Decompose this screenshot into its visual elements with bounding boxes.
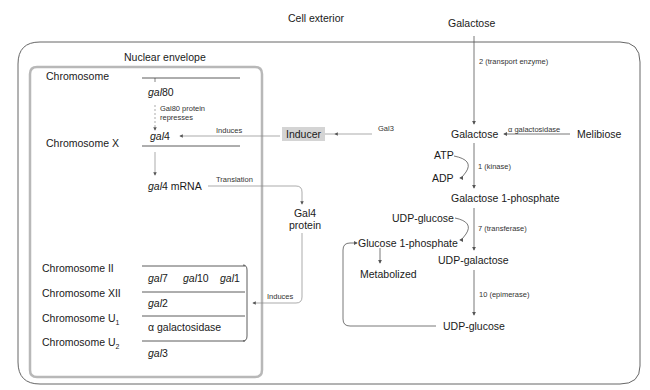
udp-galactose: UDP-galactose [438, 254, 509, 266]
gene-gal1: gal1 [220, 272, 240, 284]
atp: ATP [434, 149, 454, 161]
galactose-1-phosphate: Galactose 1-phosphate [451, 192, 560, 204]
gene-gal80: gal80 [148, 86, 174, 98]
gal4-protein: Gal4protein [289, 207, 321, 231]
metabolized: Metabolized [360, 268, 417, 280]
galactose-exterior: Galactose [448, 17, 495, 29]
induces-label-bottom: Induces [267, 292, 293, 301]
kinase-label: 1 (kinase) [478, 162, 511, 171]
chromosome-ii-label: Chromosome II [42, 262, 114, 274]
gene-alpha-galactosidase: α galactosidase [148, 321, 221, 333]
nuclear-envelope-label: Nuclear envelope [124, 51, 206, 63]
transport-enzyme-label: 2 (transport enzyme) [479, 57, 548, 66]
translation-label: Translation [216, 175, 253, 184]
chromosome-u2-label: Chromosome U2 [42, 336, 119, 350]
glucose-1-phosphate: Glucose 1-phosphate [358, 237, 458, 249]
gene-gal2: gal2 [148, 297, 168, 309]
epimerase-label: 10 (epimerase) [479, 290, 529, 299]
adp: ADP [432, 172, 454, 184]
gal3-label: Gal3 [378, 124, 394, 133]
inducer-box: Inducer [282, 127, 325, 141]
transferase-label: 7 (transferase) [478, 224, 527, 233]
udp-glucose-output: UDP-glucose [443, 320, 505, 332]
gal4-mrna: gal4 mRNA [148, 180, 202, 192]
gene-gal3: gal3 [148, 347, 168, 359]
represses-label: represses [160, 113, 193, 122]
nuclear-envelope [30, 67, 262, 377]
gene-gal7: gal7 [148, 272, 168, 284]
melibiose: Melibiose [577, 128, 621, 140]
chromosome-label: Chromosome [46, 70, 109, 82]
induces-label-top: Induces [216, 126, 242, 135]
galactose-interior: Galactose [451, 128, 498, 140]
gal80-protein-label: Gal80 protein [160, 104, 205, 113]
chromosome-u1-label: Chromosome U1 [42, 312, 119, 326]
cell-membrane [18, 42, 640, 384]
chromosome-x-label: Chromosome X [46, 137, 119, 149]
udp-glucose-input: UDP-glucose [392, 212, 454, 224]
gene-gal10: gal10 [183, 272, 209, 284]
cell-exterior-label: Cell exterior [288, 12, 344, 24]
chromosome-xii-label: Chromosome XII [42, 287, 121, 299]
gene-gal4: gal4 [150, 130, 170, 142]
alpha-galactosidase-label: α galactosidase [508, 125, 560, 134]
